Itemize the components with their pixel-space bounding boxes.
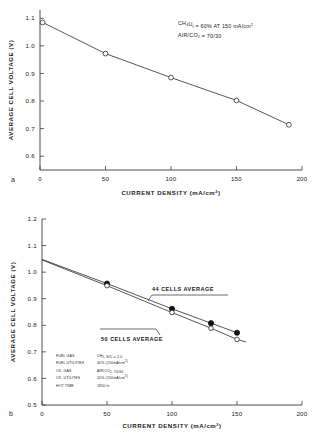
panel-b-series-line-50-cells xyxy=(42,260,246,342)
y-tick-label: 0.9 xyxy=(27,295,37,302)
x-tick-label: 50 xyxy=(103,410,111,417)
panel-a-letter: a xyxy=(11,176,15,183)
callout-line-50-cells xyxy=(100,329,160,335)
param-key: FUEL GAS xyxy=(56,354,75,358)
param-value: 1850 hr xyxy=(97,384,111,388)
panel-a-data-point xyxy=(234,98,239,103)
panel-b-letter: b xyxy=(9,410,13,417)
param-value: CH4, S/C = 2.0 xyxy=(97,354,122,359)
param-value: 40% (150mA/cm2) xyxy=(97,359,128,365)
y-tick-label: 0.5 xyxy=(27,401,37,408)
panel-a-data-point xyxy=(287,122,292,127)
x-tick-label: 50 xyxy=(102,175,110,182)
panel-b-series-line-44-cells xyxy=(42,259,237,332)
chart-panel-b: 0.50.60.70.80.91.01.11.2050100150200CURR… xyxy=(0,205,313,439)
y-tick-label: 0.7 xyxy=(25,125,35,132)
y-tick-label: 0.6 xyxy=(27,375,37,382)
x-tick-label: 100 xyxy=(165,175,176,182)
label-50-cells: 50 CELLS AVERAGE xyxy=(101,336,163,342)
y-tick-label: 0.9 xyxy=(25,70,35,77)
y-tick-label: 0.8 xyxy=(25,97,35,104)
param-key: OX. GAS xyxy=(56,369,72,373)
y-tick-label: 0.7 xyxy=(27,348,37,355)
annotation-fuel-utilization: CH4Uf = 60% AT 150 mA/cm2 xyxy=(178,20,253,29)
panel-a-data-point xyxy=(40,20,45,25)
panel-b-xaxis-title: CURRENT DENSITY (mA/cm2) xyxy=(122,422,221,429)
x-tick-label: 150 xyxy=(231,410,242,417)
y-tick-label: 1.0 xyxy=(25,42,35,49)
param-key: OX. UTILITES xyxy=(56,376,81,380)
param-key: FUEL UTILITIES xyxy=(56,361,85,365)
x-tick-label: 150 xyxy=(231,175,242,182)
callout-line-44-cells xyxy=(148,295,228,301)
panel-b-data-point-50-cells xyxy=(105,283,110,288)
panel-b-data-point-44-cells xyxy=(208,321,213,326)
panel-a-yaxis-title: AVERAGE CELL VOLTAGE (V) xyxy=(7,40,14,140)
y-tick-label: 0.6 xyxy=(25,152,35,159)
chart-panel-a: 0.60.70.80.91.01.1050100150200CURRENT DE… xyxy=(0,0,313,205)
y-tick-label: 1.2 xyxy=(27,215,37,222)
panel-a-series-line xyxy=(43,22,289,124)
panel-b-plot: 0.50.60.70.80.91.01.11.2050100150200CURR… xyxy=(0,205,313,439)
y-tick-label: 0.8 xyxy=(27,321,37,328)
panel-a-xaxis-title: CURRENT DENSITY (mA/cm2) xyxy=(121,189,220,196)
x-tick-label: 200 xyxy=(296,410,307,417)
annotation-oxidant-ratio: AIR/CO2 = 70/30 xyxy=(178,32,221,39)
y-tick-label: 1.1 xyxy=(27,242,37,249)
y-tick-label: 1.1 xyxy=(25,14,35,21)
param-value: 20% (150mA/cm2) xyxy=(97,374,128,380)
panel-a-axes xyxy=(40,10,302,170)
panel-b-data-point-50-cells xyxy=(209,326,214,331)
panel-a-data-point xyxy=(103,51,108,56)
panel-a-plot: 0.60.70.80.91.01.1050100150200CURRENT DE… xyxy=(0,0,313,205)
label-44-cells: 44 CELLS AVERAGE xyxy=(152,286,214,292)
x-tick-label: 200 xyxy=(296,175,307,182)
panel-b-data-point-50-cells xyxy=(170,310,175,315)
y-tick-label: 1.0 xyxy=(27,268,37,275)
param-value: AIR/CO2, 70/30 xyxy=(97,369,123,374)
figure-container: 0.60.70.80.91.01.1050100150200CURRENT DE… xyxy=(0,0,313,439)
panel-a-data-point xyxy=(169,75,174,80)
x-tick-label: 0 xyxy=(40,410,44,417)
x-tick-label: 0 xyxy=(38,175,42,182)
panel-b-data-point-44-cells xyxy=(234,330,239,335)
panel-b-yaxis-title: AVERAGE CELL VOLTAGE (V) xyxy=(9,262,16,362)
param-key: HOT TIME xyxy=(56,384,74,388)
x-tick-label: 100 xyxy=(166,410,177,417)
panel-b-data-point-50-cells xyxy=(235,337,240,342)
